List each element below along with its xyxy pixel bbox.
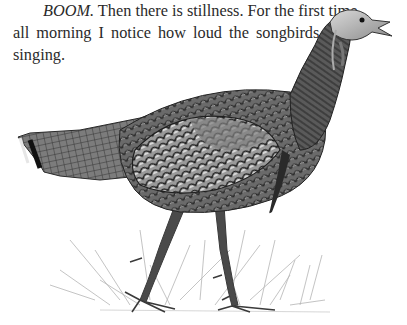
neck xyxy=(290,22,352,150)
wild-turkey-illustration xyxy=(0,0,407,325)
eye xyxy=(360,18,365,23)
head xyxy=(330,10,392,40)
book-page: BOOM. Then there is stillness. For the f… xyxy=(0,0,407,325)
grass xyxy=(50,230,330,312)
